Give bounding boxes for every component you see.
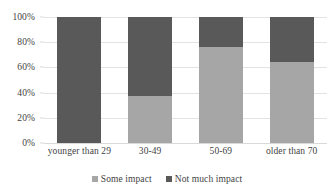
bar-slot (115, 17, 186, 143)
x-axis-category-label: older than 70 (256, 146, 327, 162)
legend-item[interactable]: Some impact (92, 174, 152, 184)
bar-segment-not-much-impact[interactable] (57, 17, 101, 143)
bar-group (44, 17, 327, 143)
y-axis-tick-label: 80% (17, 37, 35, 47)
legend-item-label: Some impact (101, 174, 152, 184)
stacked-bar[interactable] (199, 17, 243, 143)
x-axis: younger than 2930-4950-69older than 70 (44, 146, 327, 162)
bar-segment-not-much-impact[interactable] (128, 17, 172, 96)
y-axis-tick-label: 40% (17, 88, 35, 98)
stacked-bar[interactable] (270, 17, 314, 143)
stacked-bar[interactable] (128, 17, 172, 143)
bar-slot (256, 17, 327, 143)
stacked-bar[interactable] (57, 17, 101, 143)
x-axis-category-label: 50-69 (186, 146, 257, 162)
y-axis: 100%80%60%40%20%0% (0, 0, 44, 196)
stacked-bar-chart: 100%80%60%40%20%0% younger than 2930-495… (0, 0, 334, 196)
x-axis-category-label: 30-49 (115, 146, 186, 162)
gridline (44, 143, 327, 144)
bar-segment-some-impact[interactable] (128, 96, 172, 143)
y-axis-tick-label: 20% (17, 113, 35, 123)
plot-area (44, 17, 327, 143)
x-axis-category-label: younger than 29 (44, 146, 115, 162)
bar-segment-some-impact[interactable] (270, 62, 314, 143)
bar-segment-not-much-impact[interactable] (199, 17, 243, 47)
legend-item-label: Not much impact (175, 174, 242, 184)
bar-slot (186, 17, 257, 143)
bar-segment-some-impact[interactable] (199, 47, 243, 143)
legend-item[interactable]: Not much impact (166, 174, 242, 184)
chart-legend: Some impactNot much impact (0, 174, 334, 184)
square-swatch-icon (92, 176, 98, 182)
y-axis-tick-label: 0% (22, 138, 35, 148)
bar-segment-not-much-impact[interactable] (270, 17, 314, 62)
y-axis-tick-label: 60% (17, 62, 35, 72)
bar-slot (44, 17, 115, 143)
square-swatch-icon (166, 176, 172, 182)
y-axis-tick-label: 100% (12, 12, 35, 22)
